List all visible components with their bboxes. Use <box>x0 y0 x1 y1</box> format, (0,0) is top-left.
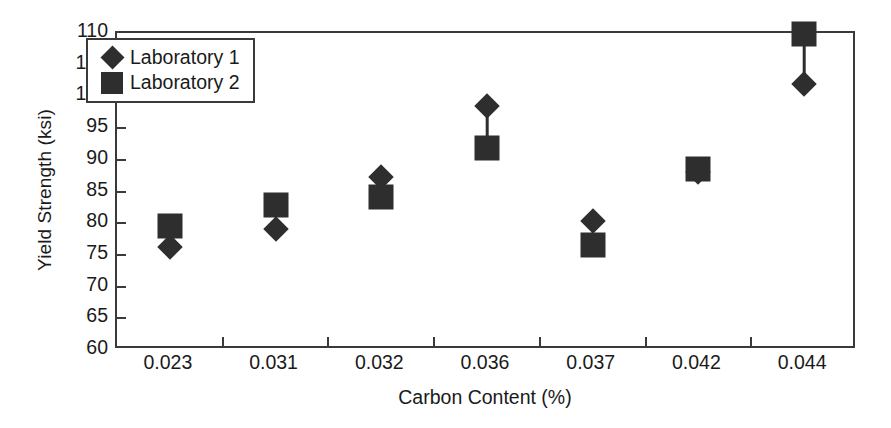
square-marker-icon <box>97 72 127 94</box>
y-axis-tick-label: 70 <box>62 275 108 295</box>
x-axis-tick-label: 0.037 <box>536 353 646 373</box>
legend-key-shape <box>101 72 123 94</box>
x-axis-tick-label: 0.036 <box>430 353 540 373</box>
x-axis-tick-mark <box>645 337 647 346</box>
y-axis-tick-mark <box>117 254 126 256</box>
chart-figure: Yield Strength (ksi) 6065707580859095100… <box>0 0 891 428</box>
x-axis-tick-label: 0.031 <box>219 353 329 373</box>
x-axis-tick-labels: 0.0230.0310.0320.0360.0370.0420.044 <box>115 353 855 379</box>
data-point-laboratory-1 <box>580 209 605 234</box>
y-axis-tick-label: 85 <box>62 180 108 200</box>
y-axis-tick-label: 90 <box>62 148 108 168</box>
y-axis-tick-mark <box>117 191 126 193</box>
y-axis-tick-label: 65 <box>62 306 108 326</box>
x-axis-title: Carbon Content (%) <box>115 386 855 409</box>
x-axis-tick-mark <box>750 337 752 346</box>
y-axis-tick-mark <box>117 159 126 161</box>
y-axis-tick-label: 60 <box>62 338 108 358</box>
data-point-laboratory-2 <box>792 22 817 47</box>
data-point-laboratory-1 <box>263 216 288 241</box>
y-axis-tick-mark <box>117 286 126 288</box>
legend-item-label: Laboratory 1 <box>127 48 240 68</box>
x-axis-tick-label: 0.032 <box>324 353 434 373</box>
data-point-laboratory-2 <box>263 193 288 218</box>
y-axis-tick-mark <box>117 222 126 224</box>
data-point-laboratory-2 <box>580 232 605 257</box>
data-point-laboratory-1 <box>474 93 499 118</box>
diamond-marker-icon <box>97 49 127 66</box>
data-point-laboratory-2 <box>475 136 500 161</box>
x-axis-tick-label: 0.023 <box>113 353 223 373</box>
legend-key-shape <box>100 45 124 69</box>
y-axis-tick-label: 80 <box>62 211 108 231</box>
y-axis-tick-mark <box>117 127 126 129</box>
data-point-laboratory-1 <box>791 71 816 96</box>
x-axis-tick-mark <box>539 337 541 346</box>
legend-item-label: Laboratory 2 <box>127 73 240 93</box>
y-axis-tick-label: 75 <box>62 243 108 263</box>
legend-item-1: Laboratory 1 <box>97 45 240 70</box>
x-axis-tick-mark <box>433 337 435 346</box>
x-axis-tick-mark <box>222 337 224 346</box>
y-axis-tick-mark <box>117 317 126 319</box>
chart-legend: Laboratory 1Laboratory 2 <box>86 38 255 103</box>
x-axis-tick-label: 0.042 <box>641 353 751 373</box>
x-axis-tick-label: 0.044 <box>747 353 857 373</box>
legend-item-2: Laboratory 2 <box>97 70 240 95</box>
y-axis-tick-label: 95 <box>62 116 108 136</box>
x-axis-tick-mark <box>327 337 329 346</box>
